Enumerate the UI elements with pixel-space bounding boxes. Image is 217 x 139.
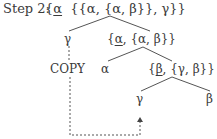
mid-head: α [115,32,123,46]
lower-head: β [156,62,163,76]
branch-lower-right [172,77,210,91]
arrowhead-icon [137,117,143,122]
beta-leaf: β [206,92,213,106]
alpha-leaf: α [101,62,109,76]
mid-node: {α, {α, β}} [107,32,176,46]
gamma-node: γ [64,32,71,46]
lower-rest: , {γ, β}} [163,62,215,76]
step-label: Step 2: [3,2,50,16]
branch-lower-left [141,77,172,91]
copy-label: COPY [50,62,85,76]
mid-rest: , {α, β}} [123,32,176,46]
dashed-copy-path [70,77,140,135]
step-expression: {α {{α, {α, β}}, γ}} [45,2,186,16]
gamma-leaf: γ [136,92,143,106]
branch-root-right [110,16,150,31]
expr-rest: {{α, {α, β}}, γ}} [62,1,186,16]
branch-root-left [69,16,110,31]
branch-mid-right [143,47,172,61]
expr-head: α [53,1,62,16]
mid-open: { [107,32,115,46]
lower-open: { [148,62,156,76]
lower-node: {β, {γ, β}} [148,62,215,76]
branch-mid-left [108,47,143,61]
